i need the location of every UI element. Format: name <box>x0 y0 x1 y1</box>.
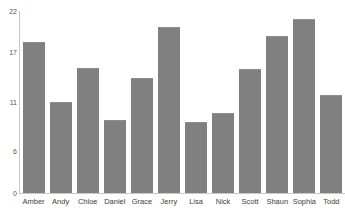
y-tick-label: 0 <box>1 190 17 197</box>
y-tick-label: 6 <box>1 148 17 155</box>
x-tick-label: Lisa <box>182 196 209 210</box>
x-tick-label: Todd <box>318 196 345 210</box>
y-tick-label: 22 <box>1 8 17 15</box>
x-tick-label: Nick <box>210 196 237 210</box>
bar[interactable] <box>50 102 72 193</box>
bar-slot <box>264 11 291 193</box>
bar-slot <box>291 11 318 193</box>
bar[interactable] <box>266 36 288 193</box>
x-tick-label: Grace <box>128 196 155 210</box>
x-tick-label: Shaun <box>264 196 291 210</box>
x-tick-label: Scott <box>237 196 264 210</box>
x-tick-label: Amber <box>20 196 47 210</box>
chart-title <box>0 0 345 4</box>
bar[interactable] <box>293 19 315 193</box>
y-tick-label: 17 <box>1 49 17 56</box>
bar[interactable] <box>158 27 180 193</box>
bar-slot <box>210 11 237 193</box>
bar-slot <box>155 11 182 193</box>
bar-slot <box>237 11 264 193</box>
bar-slot <box>20 11 47 193</box>
bar-series <box>20 11 345 193</box>
bar[interactable] <box>185 122 207 193</box>
x-tick-label: Andy <box>47 196 74 210</box>
bar[interactable] <box>239 69 261 193</box>
bar-slot <box>318 11 345 193</box>
x-tick-label: Daniel <box>101 196 128 210</box>
bar[interactable] <box>104 120 126 193</box>
bar-slot <box>74 11 101 193</box>
x-tick-label: Jerry <box>155 196 182 210</box>
bar-slot <box>47 11 74 193</box>
bar[interactable] <box>77 68 99 193</box>
y-axis-tick-labels: 22 17 11 6 0 <box>0 0 17 214</box>
bar[interactable] <box>212 113 234 193</box>
bar-slot <box>128 11 155 193</box>
bar-slot <box>101 11 128 193</box>
bar[interactable] <box>320 95 342 193</box>
bar-chart: 22 17 11 6 0 AmberAndyChloeDanielGraceJe… <box>0 0 345 214</box>
bar[interactable] <box>23 42 45 193</box>
x-axis-line <box>19 193 345 194</box>
x-tick-label: Sophia <box>291 196 318 210</box>
x-tick-label: Chloe <box>74 196 101 210</box>
x-axis-tick-labels: AmberAndyChloeDanielGraceJerryLisaNickSc… <box>20 196 345 210</box>
bar-slot <box>182 11 209 193</box>
y-tick-label: 11 <box>1 99 17 106</box>
bar[interactable] <box>131 78 153 193</box>
